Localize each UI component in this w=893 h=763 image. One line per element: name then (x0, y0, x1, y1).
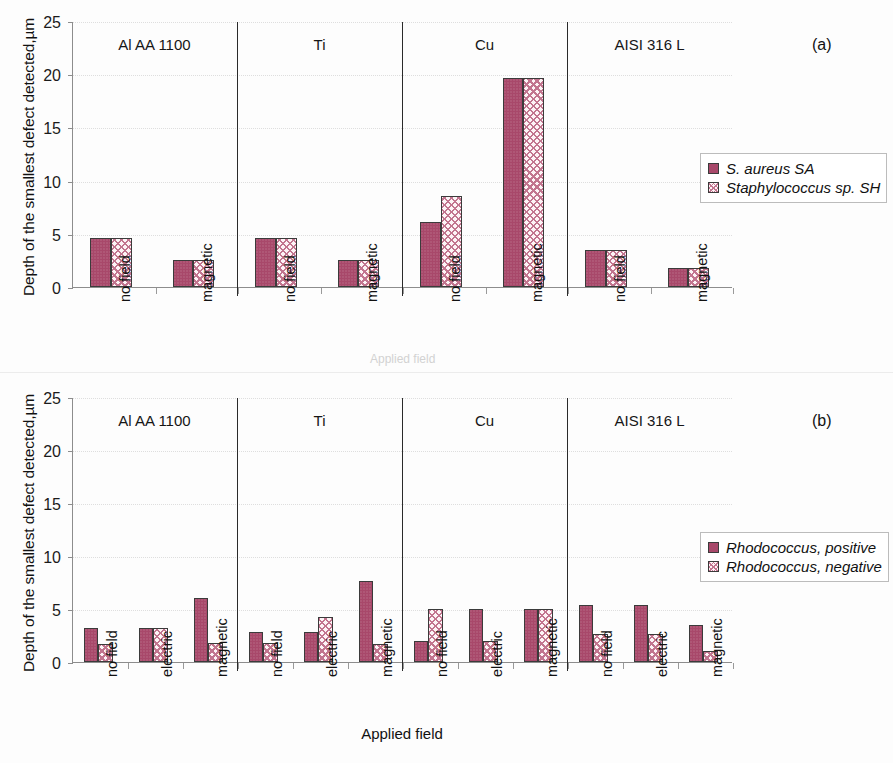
bar-cu-electric-s1 (469, 609, 483, 662)
bar-al-aa-1100-magnetic-s1 (173, 260, 194, 287)
y-tick-label: 10 (43, 549, 61, 567)
group-label-aisi-316-l: AISI 316 L (614, 412, 684, 429)
x-category-label: no field (447, 255, 463, 302)
legend-label: Staphylococcus sp. SH (726, 179, 880, 196)
bar-al-aa-1100-magnetic-s1 (194, 598, 208, 662)
x-category-label: no field (612, 255, 628, 302)
scan-artifact-line (0, 372, 893, 373)
legend-swatch-icon (708, 542, 719, 553)
group-separator-extension (567, 663, 568, 671)
bar-aisi-316-l-magnetic-s1 (668, 268, 689, 287)
group-separator (402, 22, 403, 288)
y-tick-label: 5 (52, 602, 61, 620)
legend-swatch-icon (708, 561, 719, 572)
x-tick (183, 663, 184, 669)
x-category-label: magnetic (364, 243, 380, 302)
x-category-label: magnetic (544, 618, 560, 677)
group-label-cu: Cu (475, 412, 494, 429)
legend-item: Rhodococcus, positive (708, 538, 882, 557)
y-tick-label: 0 (52, 280, 61, 298)
x-tick (293, 663, 294, 669)
legend-a: S. aureus SAStaphylococcus sp. SH (700, 153, 887, 203)
bar-cu-no-field-s1 (414, 641, 428, 662)
x-tick (513, 663, 514, 669)
x-category-label: no field (434, 630, 450, 677)
group-label-aisi-316-l: AISI 316 L (614, 36, 684, 53)
y-tick-label: 20 (43, 67, 61, 85)
group-separator-extension (237, 663, 238, 671)
group-separator (567, 398, 568, 663)
legend-b: Rhodococcus, positiveRhodococcus, negati… (700, 532, 889, 582)
x-tick (238, 663, 239, 669)
bar-aisi-316-l-no-field-s1 (579, 605, 593, 662)
x-category-label: electric (489, 631, 505, 677)
bar-ti-electric-s1 (304, 632, 318, 662)
bar-aisi-316-l-no-field-s1 (585, 250, 606, 287)
group-label-ti: Ti (314, 412, 326, 429)
group-label-cu: Cu (475, 36, 494, 53)
bar-ti-magnetic-s1 (359, 581, 373, 662)
x-tick (403, 288, 404, 294)
x-category-label: magnetic (529, 243, 545, 302)
bar-ti-magnetic-s1 (338, 260, 359, 287)
bar-cu-magnetic-s1 (524, 609, 538, 662)
x-tick (403, 663, 404, 669)
bar-ti-no-field-s1 (249, 632, 263, 662)
group-separator-extension (402, 288, 403, 296)
bar-al-aa-1100-electric-s1 (139, 628, 153, 662)
group-separator-extension (567, 288, 568, 296)
x-category-label: magnetic (199, 243, 215, 302)
y-tick-label: 5 (52, 227, 61, 245)
x-tick (486, 288, 487, 294)
group-label-al-aa-1100: Al AA 1100 (118, 36, 190, 53)
y-axis-title-b: Depth of the smallest defect detected,µm (20, 394, 38, 672)
legend-swatch-icon (708, 182, 719, 193)
x-tick (348, 663, 349, 669)
x-tick (568, 663, 569, 669)
x-tick (128, 663, 129, 669)
x-tick (651, 288, 652, 294)
x-tick (156, 288, 157, 294)
scan-artifact-text: Applied field (370, 352, 435, 366)
bar-aisi-316-l-electric-s1 (634, 605, 648, 662)
x-category-label: magnetic (709, 618, 725, 677)
x-category-label: electric (654, 631, 670, 677)
y-tick-label: 20 (43, 443, 61, 461)
y-tick-label: 10 (43, 174, 61, 192)
group-separator (402, 398, 403, 663)
panel-letter-b: (b) (812, 412, 832, 430)
x-tick (678, 663, 679, 669)
x-category-label: no field (269, 630, 285, 677)
x-tick (458, 663, 459, 669)
bar-cu-magnetic-s1 (503, 78, 524, 287)
group-separator-extension (237, 288, 238, 296)
legend-item: Staphylococcus sp. SH (708, 178, 880, 197)
x-tick (568, 288, 569, 294)
legend-label: S. aureus SA (726, 160, 814, 177)
figure-root: Depth of the smallest defect detected,µm… (0, 0, 893, 763)
group-separator (237, 22, 238, 288)
x-category-label: no field (599, 630, 615, 677)
y-tick-label: 25 (43, 14, 61, 32)
y-axis-title-a: Depth of the smallest defect detected,µm (20, 18, 38, 296)
x-category-label: magnetic (694, 243, 710, 302)
group-label-ti: Ti (314, 36, 326, 53)
legend-label: Rhodococcus, negative (726, 558, 882, 575)
x-tick (321, 288, 322, 294)
x-category-label: magnetic (214, 618, 230, 677)
y-tick-label: 15 (43, 496, 61, 514)
legend-swatch-icon (708, 163, 719, 174)
bar-al-aa-1100-no-field-s1 (84, 628, 98, 662)
bar-al-aa-1100-no-field-s1 (90, 238, 111, 287)
y-tick-0: 0 (68, 663, 73, 664)
group-separator-extension (402, 663, 403, 671)
y-tick-0: 0 (68, 288, 73, 289)
x-tick (238, 288, 239, 294)
x-category-label: electric (324, 631, 340, 677)
group-separator (567, 22, 568, 288)
bar-ti-no-field-s1 (255, 238, 276, 287)
y-tick-label: 15 (43, 120, 61, 138)
bar-aisi-316-l-magnetic-s1 (689, 625, 703, 662)
x-category-label: no field (282, 255, 298, 302)
x-axis-title: Applied field (361, 725, 443, 742)
